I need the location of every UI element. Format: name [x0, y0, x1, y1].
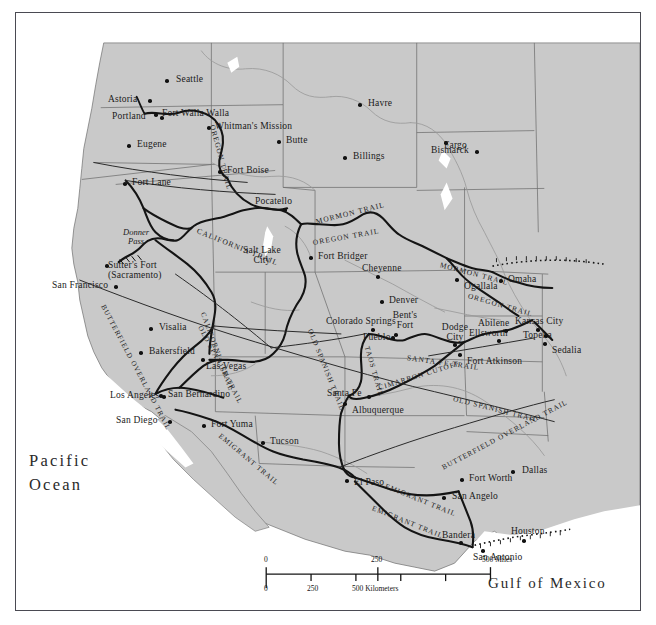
city-dot: [380, 300, 384, 304]
city-dot: [149, 327, 153, 331]
city-dot: [544, 334, 548, 338]
city-dot: [277, 140, 281, 144]
dodge-city-dot: [453, 343, 457, 347]
city-dot: [475, 150, 479, 154]
city-dot: [114, 285, 118, 289]
city-dot: [309, 256, 313, 260]
city-dot: [455, 278, 459, 282]
city-dot: [444, 141, 448, 145]
sutters-fort-dot: [105, 264, 109, 268]
city-dot: [127, 144, 131, 148]
city-dot: [207, 126, 211, 130]
city-dot: [522, 539, 526, 543]
city-dot: [367, 395, 371, 399]
city-dot: [391, 336, 395, 340]
city-dot: [376, 275, 380, 279]
city-dot: [504, 329, 508, 333]
city-dot: [442, 496, 446, 500]
city-dot: [481, 549, 485, 553]
city-dot: [543, 342, 547, 346]
city-dot: [371, 328, 375, 332]
city-dot: [160, 116, 164, 120]
city-dot: [261, 441, 265, 445]
city-dot: [123, 182, 127, 186]
city-dot: [148, 99, 152, 103]
city-dot: [201, 358, 205, 362]
city-dot: [168, 420, 172, 424]
city-dot: [345, 479, 349, 483]
city-dot: [283, 208, 287, 212]
city-dot: [497, 339, 501, 343]
city-dot: [460, 478, 464, 482]
city-dot: [165, 79, 169, 83]
city-dot: [458, 353, 462, 357]
city-dot: [343, 156, 347, 160]
city-dot: [499, 279, 503, 283]
city-dot: [511, 470, 515, 474]
city-dot: [358, 103, 362, 107]
city-dot: [459, 541, 463, 545]
landmass-usa-west: [72, 43, 640, 571]
city-dot: [159, 394, 163, 398]
city-dot: [536, 328, 540, 332]
map-frame: Pacific Ocean Gulf of Mexico Donner Pass…: [15, 12, 641, 611]
city-dot: [139, 351, 143, 355]
map-root: Pacific Ocean Gulf of Mexico Donner Pass…: [0, 0, 656, 625]
city-dot: [343, 402, 347, 406]
city-dot: [202, 424, 206, 428]
city-dot: [154, 113, 158, 117]
city-dot: [218, 170, 222, 174]
map-graphics: [16, 13, 640, 610]
